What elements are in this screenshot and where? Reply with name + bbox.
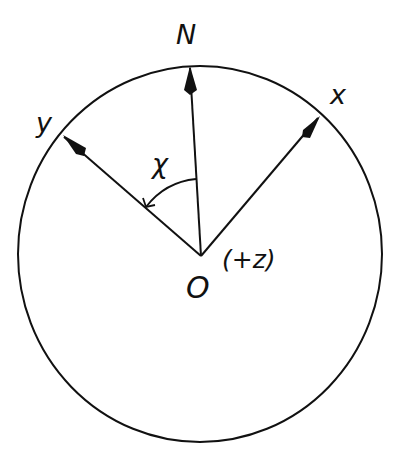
y-axis-arrow <box>64 137 201 256</box>
north-arrow <box>190 68 201 256</box>
angle-label: χ <box>150 148 169 179</box>
x-axis-label: x <box>329 79 347 110</box>
north-label: N <box>176 19 196 50</box>
angle-arc <box>146 179 196 207</box>
origin-label: O <box>186 270 210 305</box>
y-axis-label: y <box>35 107 53 138</box>
x-axis-arrow <box>201 118 318 256</box>
coordinate-diagram: N x y χ O (+z) <box>0 0 399 464</box>
y-arrowhead-icon <box>63 135 86 156</box>
z-axis-label: (+z) <box>222 245 276 274</box>
x-arrowhead-icon <box>302 116 320 138</box>
north-arrowhead-icon <box>184 66 197 95</box>
